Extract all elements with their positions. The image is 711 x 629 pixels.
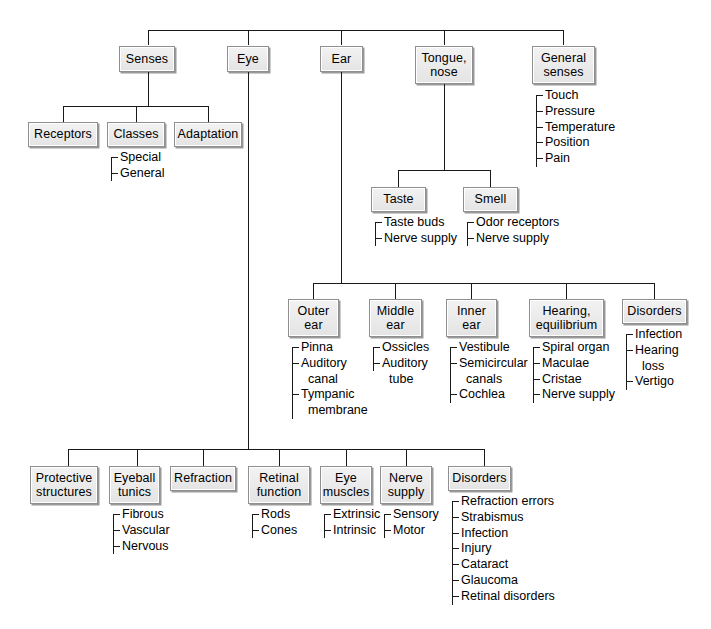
tick-icon xyxy=(536,111,543,112)
list-item-continuation: loss xyxy=(626,359,682,375)
list-ear-disorders: Infection Hearing loss Vertigo xyxy=(626,327,682,390)
list-item: Injury xyxy=(452,541,555,557)
node-tongue-nose[interactable]: Tongue, nose xyxy=(415,46,473,84)
list-item: Intrinsic xyxy=(324,523,380,539)
tick-icon xyxy=(467,238,474,239)
list-item: Pinna xyxy=(292,340,368,356)
node-eye-label: Eye xyxy=(228,47,268,71)
stem-ear-disorders xyxy=(654,283,655,299)
tick-icon xyxy=(384,514,391,515)
node-protective-structures[interactable]: Protective structures xyxy=(30,466,98,504)
tick-icon xyxy=(452,580,459,581)
stem-taste xyxy=(398,170,399,187)
list-item: Cochlea xyxy=(450,387,528,403)
tongue-children-bar xyxy=(398,170,491,171)
node-senses[interactable]: Senses xyxy=(119,46,175,72)
node-retinal-function[interactable]: Retinal function xyxy=(248,466,310,504)
stem-hearing-equilibrium xyxy=(566,283,567,299)
list-item: Auditory xyxy=(292,356,368,372)
tick-icon xyxy=(373,347,380,348)
stem-eye-muscles xyxy=(346,449,347,466)
list-item: Maculae xyxy=(533,356,615,372)
list-item: Retinal disorders xyxy=(452,589,555,605)
stem-outer-ear xyxy=(313,283,314,299)
tick-icon xyxy=(533,379,540,380)
list-item: Rods xyxy=(252,507,297,523)
list-item: Infection xyxy=(626,327,682,343)
top-stem-tongue-nose xyxy=(444,30,445,45)
top-stem-senses xyxy=(148,30,149,45)
node-receptors-label: Receptors xyxy=(29,123,97,146)
node-eye-disorders[interactable]: Disorders xyxy=(448,466,511,491)
tick-icon xyxy=(373,363,380,364)
node-ear[interactable]: Ear xyxy=(320,46,363,72)
tick-icon xyxy=(324,514,331,515)
node-inner-ear[interactable]: Inner ear xyxy=(446,299,497,337)
list-eye-nerve-supply: Sensory Motor xyxy=(384,507,439,539)
list-inner-ear: Vestibule Semicircular canals Cochlea xyxy=(450,340,528,403)
stem-classes xyxy=(136,106,137,122)
node-smell[interactable]: Smell xyxy=(463,187,518,212)
ear-drop xyxy=(341,72,342,283)
tick-icon xyxy=(111,173,118,174)
node-classes[interactable]: Classes xyxy=(107,122,165,147)
node-receptors[interactable]: Receptors xyxy=(28,122,98,147)
tick-icon xyxy=(113,546,120,547)
list-middle-ear: Ossicles Auditory tube xyxy=(373,340,429,387)
stem-smell xyxy=(490,170,491,187)
node-ear-disorders-label: Disorders xyxy=(623,300,686,323)
tick-icon xyxy=(292,363,299,364)
tick-icon xyxy=(113,530,120,531)
list-item: Nervous xyxy=(113,539,170,555)
tick-icon xyxy=(536,95,543,96)
list-item: Infection xyxy=(452,526,555,542)
list-hearing-equilibrium: Spiral organ Maculae Cristae Nerve suppl… xyxy=(533,340,615,403)
stem-inner-ear xyxy=(471,283,472,299)
list-item: Extrinsic xyxy=(324,507,380,523)
node-eyeball-tunics[interactable]: Eyeball tunics xyxy=(109,466,160,504)
flowchart-canvas: Senses Eye Ear Tongue, nose General sens… xyxy=(0,0,711,629)
node-hearing-equilibrium-label: Hearing, equilibrium xyxy=(530,300,603,336)
node-classes-label: Classes xyxy=(108,123,164,146)
node-refraction-label: Refraction xyxy=(171,467,235,490)
tick-icon xyxy=(452,501,459,502)
list-eyeball-tunics: Fibrous Vascular Nervous xyxy=(113,507,170,554)
node-adaptation-label: Adaptation xyxy=(175,123,241,146)
top-stem-ear xyxy=(341,30,342,45)
tongue-drop xyxy=(444,84,445,170)
node-hearing-equilibrium[interactable]: Hearing, equilibrium xyxy=(529,299,604,337)
tick-icon xyxy=(252,514,259,515)
list-retinal-function: Rods Cones xyxy=(252,507,297,539)
tick-icon xyxy=(452,548,459,549)
list-item: Vertigo xyxy=(626,374,682,390)
node-outer-ear[interactable]: Outer ear xyxy=(288,299,339,337)
senses-drop xyxy=(148,72,149,106)
list-item: Refraction errors xyxy=(452,494,555,510)
tick-icon xyxy=(536,158,543,159)
tick-icon xyxy=(533,394,540,395)
tick-icon xyxy=(533,363,540,364)
list-taste: Taste buds Nerve supply xyxy=(375,215,457,247)
node-eye-nerve-supply[interactable]: Nerve supply xyxy=(380,466,432,504)
stem-receptors xyxy=(63,106,64,122)
node-adaptation[interactable]: Adaptation xyxy=(174,122,242,147)
node-middle-ear[interactable]: Middle ear xyxy=(369,299,422,337)
list-item: Auditory xyxy=(373,356,429,372)
tick-icon xyxy=(452,564,459,565)
top-stem-general-senses xyxy=(563,30,564,45)
node-refraction[interactable]: Refraction xyxy=(170,466,236,491)
node-eye-muscles[interactable]: Eye muscles xyxy=(320,466,372,504)
list-item-continuation: tube xyxy=(373,372,429,388)
node-eye[interactable]: Eye xyxy=(227,46,269,72)
node-senses-label: Senses xyxy=(120,47,174,71)
node-general-senses[interactable]: General senses xyxy=(532,46,595,84)
list-item: Nerve supply xyxy=(533,387,615,403)
stem-protective-structures xyxy=(68,449,69,466)
node-taste[interactable]: Taste xyxy=(371,187,426,212)
list-item: Position xyxy=(536,135,615,151)
node-protective-structures-label: Protective structures xyxy=(31,467,97,503)
list-item: Ossicles xyxy=(373,340,429,356)
tick-icon xyxy=(626,334,633,335)
tick-icon xyxy=(450,347,457,348)
node-ear-disorders[interactable]: Disorders xyxy=(622,299,687,324)
